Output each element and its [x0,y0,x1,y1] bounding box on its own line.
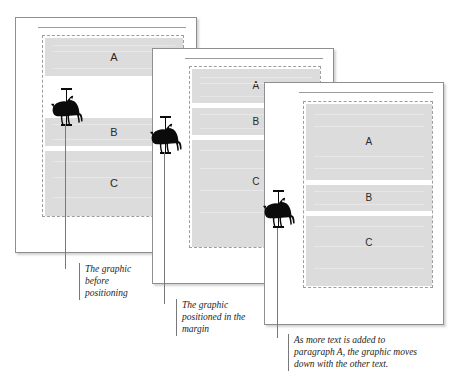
leader-line-1 [65,124,66,269]
paragraph-block-c-3: C [306,216,432,286]
paragraph-block-a-3: A [306,104,432,180]
caption-graphic-positioned-in-margin: The graphic positioned in the margin [176,299,286,336]
carousel-pole-2 [165,116,166,154]
carousel-horse-icon-3 [262,195,298,228]
text-frame-3: A B C [303,101,433,288]
figure-canvas: A B C [0,0,456,387]
carousel-pole-3 [278,190,279,228]
paragraph-label-c-2: C [252,177,260,187]
caption-graphic-moves-with-text: As more text is added to paragraph A, th… [288,334,453,371]
paragraph-label-a-3: A [366,137,373,147]
carousel-pole-1 [66,88,67,126]
paragraph-block-b-3: B [306,185,432,211]
carousel-horse-icon-2 [149,121,185,154]
caption-graphic-before-positioning: The graphic before positioning [79,263,169,300]
page-header-rule-1 [38,27,186,28]
carousel-pole-top-2 [160,116,171,118]
paragraph-label-c-3: C [365,238,373,248]
paragraph-label-b-1: B [110,127,118,138]
carousel-pole-top-3 [273,190,284,192]
page-header-rule-3 [299,92,433,93]
paragraph-label-c-1: C [110,178,118,189]
page-header-rule-2 [185,58,323,59]
carousel-horse-icon-1 [50,93,86,126]
carousel-pole-top-1 [61,88,72,90]
paragraph-label-a-1: A [110,52,118,63]
carousel-pole-base-1 [61,124,72,126]
paragraph-label-b-3: B [366,193,373,203]
paragraph-label-b-2: B [253,117,260,127]
page-sheet-3: A B C [264,82,444,325]
carousel-pole-base-2 [160,152,171,154]
carousel-pole-base-3 [273,226,284,228]
